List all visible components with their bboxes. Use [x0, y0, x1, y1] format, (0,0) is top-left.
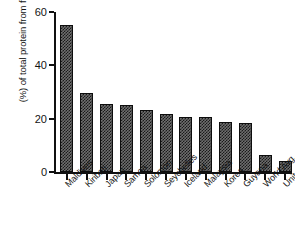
- bar: [100, 104, 113, 172]
- y-axis-title: (%) of total protein from fish: [17, 0, 28, 126]
- plot-area: 0204060: [54, 12, 292, 172]
- y-tick-mark: [49, 11, 54, 13]
- bar-chart: (%) of total protein from fish 0204060 M…: [0, 0, 295, 249]
- bar: [60, 25, 73, 172]
- y-tick-mark: [49, 118, 54, 120]
- y-tick-label: 60: [35, 6, 47, 18]
- bar: [239, 123, 252, 172]
- y-tick-label: 0: [41, 166, 47, 178]
- y-tick-label: 20: [35, 113, 47, 125]
- y-tick-mark: [49, 171, 54, 173]
- y-tick-label: 40: [35, 59, 47, 71]
- y-axis-line: [54, 12, 56, 173]
- bar: [120, 105, 133, 172]
- y-tick-mark: [49, 64, 54, 66]
